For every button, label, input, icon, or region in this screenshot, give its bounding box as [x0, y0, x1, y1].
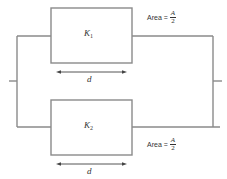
- dielectric-label-k1: K1: [84, 29, 93, 39]
- dielectric-subscript: 1: [90, 33, 93, 39]
- area-fraction: A 2: [170, 137, 176, 152]
- dielectric-label-k2: K2: [84, 121, 93, 131]
- area-fraction: A 2: [170, 10, 176, 25]
- separation-label-1: d: [87, 75, 92, 84]
- circuit-diagram: [0, 0, 227, 179]
- arrowhead-right-icon: [122, 70, 127, 74]
- arrowhead-right-icon: [122, 162, 127, 166]
- area-label-1: Area = A 2: [147, 10, 176, 25]
- arrowhead-left-icon: [56, 70, 61, 74]
- arrowhead-left-icon: [56, 162, 61, 166]
- dielectric-subscript: 2: [90, 125, 93, 131]
- area-label-2: Area = A 2: [147, 137, 176, 152]
- area-denominator: 2: [171, 145, 175, 152]
- area-prefix: Area =: [147, 14, 168, 21]
- area-prefix: Area =: [147, 141, 168, 148]
- separation-label-2: d: [87, 167, 92, 176]
- area-denominator: 2: [171, 18, 175, 25]
